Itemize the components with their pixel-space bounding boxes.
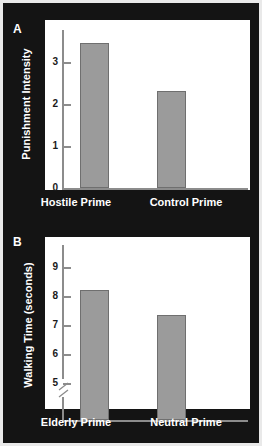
bar-control-prime: [157, 91, 186, 188]
panel-b-tick-6: [63, 354, 71, 356]
panel-b-y-axis-line-upper: [62, 245, 64, 379]
panel-a-tick-1: [63, 146, 71, 148]
panel-a-tick-2: [63, 104, 71, 106]
panel-b-tick-8: [63, 296, 71, 298]
category-label-neutral-prime: Neutral Prime: [142, 416, 230, 428]
panel-a-y-axis-label: Punishment Intensity: [20, 34, 32, 174]
bar-neutral-prime: [157, 315, 186, 420]
panel-a-ticklabel-0: 0: [44, 182, 58, 193]
category-label-control-prime: Control Prime: [142, 196, 230, 208]
panel-b-ticklabel-6: 6: [44, 348, 58, 359]
panel-b-ticklabel-7: 7: [44, 319, 58, 330]
panel-b-plot-area: 9 8 7 6 5 0: [45, 237, 250, 409]
panel-a-ticklabel-3: 3: [44, 56, 58, 67]
panel-a-category-labels: Hostile Prime Control Prime: [0, 196, 262, 208]
panel-b-y-axis-label: Walking Time (seconds): [22, 250, 34, 400]
figure-container: A Punishment Intensity 3 2 1 0 Ho: [0, 0, 262, 446]
panel-b: B Walking Time (seconds) 9 8 7 6 5: [0, 223, 262, 446]
panel-b-tick-7: [63, 325, 71, 327]
panel-b-ticklabel-5: 5: [44, 377, 58, 388]
category-label-elderly-prime: Elderly Prime: [32, 416, 120, 428]
panel-a-ticklabel-2: 2: [44, 98, 58, 109]
bar-hostile-prime: [80, 43, 109, 188]
panel-b-tick-9: [63, 267, 71, 269]
panel-a-tick-3: [63, 62, 71, 64]
axis-break-zigzag-icon: [57, 379, 71, 401]
panel-b-category-labels: Elderly Prime Neutral Prime: [0, 416, 262, 428]
panel-b-ticklabel-9: 9: [44, 261, 58, 272]
category-label-hostile-prime: Hostile Prime: [32, 196, 120, 208]
panel-a-plot-area: 3 2 1 0: [45, 20, 250, 190]
panel-b-letter: B: [13, 235, 22, 249]
panel-a: A Punishment Intensity 3 2 1 0 Ho: [0, 0, 262, 223]
panel-a-x-axis-line: [62, 188, 248, 190]
panel-a-ticklabel-1: 1: [44, 140, 58, 151]
bar-elderly-prime: [80, 290, 109, 420]
panel-b-ticklabel-8: 8: [44, 290, 58, 301]
panel-a-y-axis-line: [62, 30, 64, 189]
